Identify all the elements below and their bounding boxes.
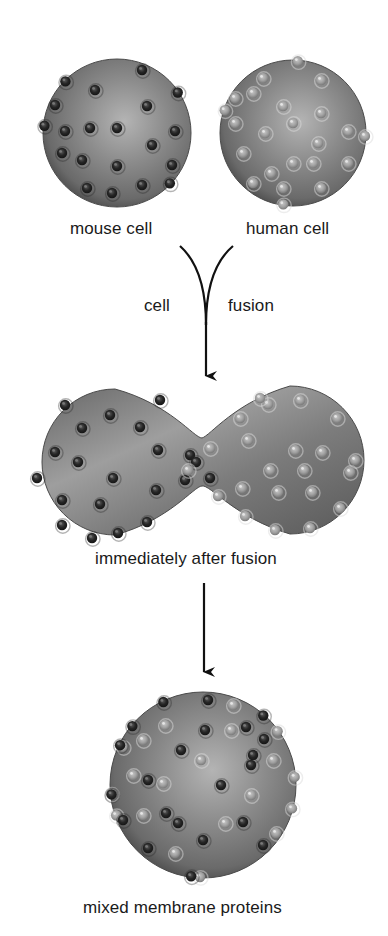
fused-cell <box>31 386 364 546</box>
mouse-protein <box>56 519 70 533</box>
cell-fusion-diagram <box>0 0 388 936</box>
mouse-protein <box>86 532 100 546</box>
mixed-stage-label: mixed membrane proteins <box>83 899 282 916</box>
mouse-protein <box>112 527 126 541</box>
cell-fusion-label-right: fusion <box>228 297 274 314</box>
fusion-arrow-left-branch <box>180 246 206 325</box>
mouse-protein <box>154 394 168 408</box>
mouse-cell <box>38 59 191 207</box>
mouse-protein <box>163 177 177 191</box>
mouse-cell-label: mouse cell <box>70 220 152 237</box>
cell-membrane <box>110 692 296 878</box>
mouse-protein <box>31 472 45 486</box>
mouse-protein <box>141 516 155 530</box>
human-cell-label: human cell <box>246 220 329 237</box>
human-cell <box>218 55 373 213</box>
human-protein <box>286 802 300 816</box>
cell-fusion-label-left: cell <box>144 297 170 314</box>
fusion-stage-label: immediately after fusion <box>95 550 277 567</box>
fusion-arrow <box>180 246 233 376</box>
mixed-cell <box>105 692 303 885</box>
